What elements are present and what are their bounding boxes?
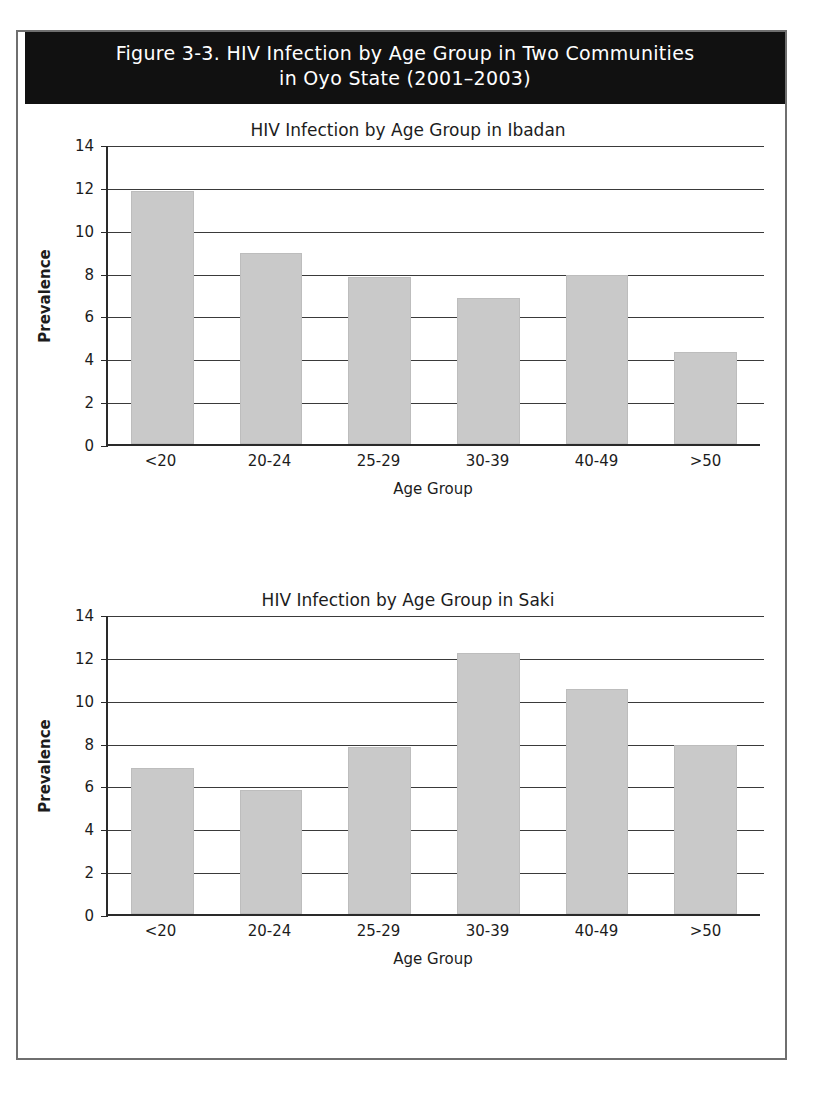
x-tick-label: 40-49 xyxy=(542,922,651,940)
bar-series-saki xyxy=(108,616,760,914)
bar-30-39 xyxy=(457,298,520,444)
y-axis-title-ibadan: Prevalence xyxy=(34,146,56,446)
y-tickmark xyxy=(101,873,108,874)
x-tick-label: 25-29 xyxy=(324,922,433,940)
bar-slot xyxy=(108,146,216,444)
bar-40-49 xyxy=(566,275,629,444)
bar-40-49 xyxy=(566,689,629,914)
bar-slot xyxy=(217,146,325,444)
bar-slot xyxy=(326,146,434,444)
y-tick-label: 0 xyxy=(84,437,94,455)
y-tick-labels-ibadan: 02468101214 xyxy=(56,146,100,446)
bar-slot xyxy=(652,616,760,914)
bar-25-29 xyxy=(348,277,411,444)
bar-slot xyxy=(434,146,542,444)
y-tick-label: 14 xyxy=(75,137,94,155)
plot-wrap-saki: Prevalence 02468101214 <2020-2425-2930-3… xyxy=(30,616,770,956)
bar-20-24 xyxy=(240,790,303,914)
bar-25-29 xyxy=(348,747,411,914)
y-tickmark xyxy=(101,830,108,831)
chart-title-saki: HIV Infection by Age Group in Saki xyxy=(30,590,770,610)
y-tickmark xyxy=(101,745,108,746)
y-tickmark xyxy=(101,403,108,404)
x-tick-label: <20 xyxy=(106,922,215,940)
x-tick-labels-ibadan: <2020-2425-2930-3940-49>50 xyxy=(106,452,760,470)
bar-slot xyxy=(326,616,434,914)
x-axis-title-saki: Age Group xyxy=(106,950,760,968)
y-tick-labels-saki: 02468101214 xyxy=(56,616,100,916)
y-tick-label: 12 xyxy=(75,650,94,668)
bar-<20 xyxy=(131,191,194,444)
y-tickmark xyxy=(101,189,108,190)
y-tick-label: 2 xyxy=(84,394,94,412)
chart-panel-saki: HIV Infection by Age Group in Saki Preva… xyxy=(30,590,770,1020)
y-tick-label: 4 xyxy=(84,351,94,369)
y-axis-title-label-ibadan: Prevalence xyxy=(36,249,54,343)
bar-slot xyxy=(543,616,651,914)
bar-slot xyxy=(652,146,760,444)
y-tickmark xyxy=(101,275,108,276)
y-tickmark xyxy=(101,146,108,147)
x-tick-label: >50 xyxy=(651,452,760,470)
y-tick-label: 6 xyxy=(84,778,94,796)
figure-title-banner: Figure 3-3. HIV Infection by Age Group i… xyxy=(25,32,785,104)
x-tick-label: 20-24 xyxy=(215,452,324,470)
chart-title-ibadan: HIV Infection by Age Group in Ibadan xyxy=(30,120,770,140)
x-tick-label: 30-39 xyxy=(433,922,542,940)
y-tickmark xyxy=(101,317,108,318)
bar-30-39 xyxy=(457,653,520,914)
y-tick-label: 2 xyxy=(84,864,94,882)
x-tick-label: 40-49 xyxy=(542,452,651,470)
bar-slot xyxy=(434,616,542,914)
plot-wrap-ibadan: Prevalence 02468101214 <2020-2425-2930-3… xyxy=(30,146,770,486)
bar-<20 xyxy=(131,768,194,914)
chart-panel-ibadan: HIV Infection by Age Group in Ibadan Pre… xyxy=(30,120,770,550)
bar-slot xyxy=(217,616,325,914)
y-tickmark xyxy=(101,446,108,447)
bar-series-ibadan xyxy=(108,146,760,444)
figure-title-text: Figure 3-3. HIV Infection by Age Group i… xyxy=(116,41,695,91)
x-tick-label: <20 xyxy=(106,452,215,470)
bar->50 xyxy=(674,352,737,444)
bar->50 xyxy=(674,745,737,914)
y-tick-label: 14 xyxy=(75,607,94,625)
y-axis-title-label-saki: Prevalence xyxy=(36,719,54,813)
y-tick-label: 8 xyxy=(84,736,94,754)
y-tick-label: 10 xyxy=(75,223,94,241)
y-tickmark xyxy=(101,916,108,917)
y-tick-label: 6 xyxy=(84,308,94,326)
y-tickmark xyxy=(101,787,108,788)
plot-area-ibadan xyxy=(106,146,760,446)
y-tickmark xyxy=(101,702,108,703)
y-tick-label: 10 xyxy=(75,693,94,711)
x-tick-label: 25-29 xyxy=(324,452,433,470)
y-tick-label: 0 xyxy=(84,907,94,925)
y-tickmark xyxy=(101,232,108,233)
y-tick-label: 12 xyxy=(75,180,94,198)
y-tickmark xyxy=(101,659,108,660)
y-tickmark xyxy=(101,616,108,617)
x-tick-label: 20-24 xyxy=(215,922,324,940)
y-tick-label: 4 xyxy=(84,821,94,839)
plot-area-saki xyxy=(106,616,760,916)
x-tick-labels-saki: <2020-2425-2930-3940-49>50 xyxy=(106,922,760,940)
x-tick-label: >50 xyxy=(651,922,760,940)
bar-slot xyxy=(543,146,651,444)
y-tick-label: 8 xyxy=(84,266,94,284)
y-axis-title-saki: Prevalence xyxy=(34,616,56,916)
bar-20-24 xyxy=(240,253,303,444)
bar-slot xyxy=(108,616,216,914)
x-tick-label: 30-39 xyxy=(433,452,542,470)
x-axis-title-ibadan: Age Group xyxy=(106,480,760,498)
y-tickmark xyxy=(101,360,108,361)
